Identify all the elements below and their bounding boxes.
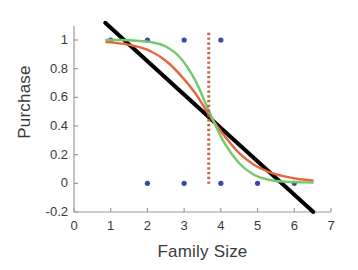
- axis-tick-marks: [74, 40, 331, 212]
- y-tick-label: -0.2: [10, 204, 68, 219]
- x-tick-label: 3: [164, 218, 204, 233]
- x-tick-label: 4: [201, 218, 241, 233]
- chart-figure: Purchase Family Size 10.80.60.40.20-0.20…: [0, 0, 358, 270]
- x-tick-label: 1: [91, 218, 131, 233]
- y-tick-label: 0.8: [10, 61, 68, 76]
- x-axis-label: Family Size: [75, 242, 330, 262]
- x-tick-label: 7: [311, 218, 351, 233]
- x-tick-label: 5: [238, 218, 278, 233]
- y-tick-label: 0: [10, 175, 68, 190]
- y-tick-label: 0.4: [10, 118, 68, 133]
- data-point: [182, 181, 187, 186]
- y-tick-label: 0.2: [10, 147, 68, 162]
- data-point: [218, 181, 223, 186]
- data-point: [255, 181, 260, 186]
- x-tick-label: 6: [274, 218, 314, 233]
- data-point: [218, 37, 223, 42]
- data-series-group: [105, 23, 313, 212]
- x-tick-label: 0: [54, 218, 94, 233]
- y-tick-label: 0.6: [10, 89, 68, 104]
- data-point: [145, 181, 150, 186]
- y-tick-label: 1: [10, 32, 68, 47]
- data-point: [182, 37, 187, 42]
- x-tick-label: 2: [127, 218, 167, 233]
